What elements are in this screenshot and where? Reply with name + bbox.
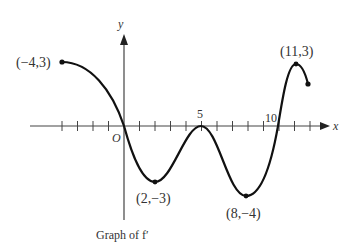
annotation-2-neg3: (2,−3) bbox=[136, 191, 171, 207]
endpoint-right bbox=[305, 81, 310, 86]
annotation-8-neg4: (8,−4) bbox=[226, 206, 261, 222]
origin-label: O bbox=[112, 131, 121, 145]
point-neg4-3 bbox=[59, 59, 64, 64]
tick-label-10: 10 bbox=[265, 111, 277, 125]
chart-title: Graph of f′ bbox=[96, 228, 149, 242]
annotation-neg4-3: (−4,3) bbox=[16, 55, 51, 71]
point-8-neg4 bbox=[244, 194, 249, 199]
y-axis-label: y bbox=[117, 17, 124, 31]
point-2-neg3 bbox=[153, 180, 158, 185]
point-11-3 bbox=[294, 62, 299, 67]
y-axis-arrow-icon bbox=[120, 34, 128, 45]
tick-label-5: 5 bbox=[197, 107, 203, 121]
f-prime-curve bbox=[62, 62, 308, 196]
x-axis-arrow-icon bbox=[320, 122, 330, 130]
x-axis-label: x bbox=[332, 119, 339, 133]
annotation-11-3: (11,3) bbox=[280, 44, 314, 60]
graph-of-f-prime: y x O 5 10 (−4,3) (2,−3) (8,−4) (11,3) G… bbox=[0, 0, 346, 249]
